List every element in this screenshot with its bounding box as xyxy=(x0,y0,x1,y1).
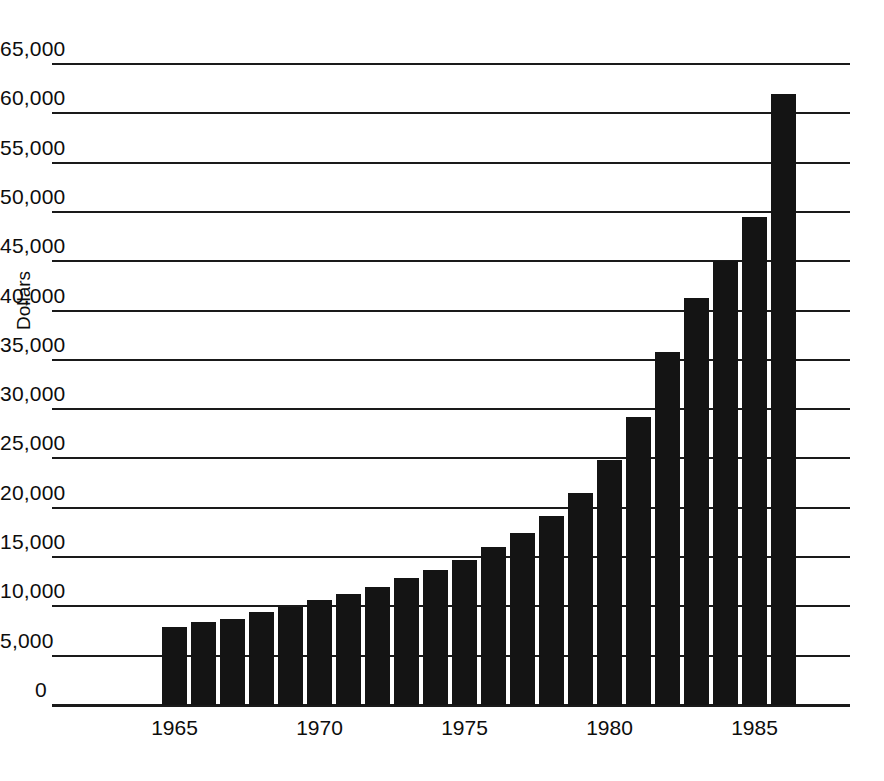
bar xyxy=(423,570,448,705)
y-axis-tick-label: 10,000 xyxy=(0,580,47,601)
bar xyxy=(481,547,506,705)
bar xyxy=(394,578,419,705)
x-axis-baseline xyxy=(52,705,850,707)
y-axis-tick-label: 60,000 xyxy=(0,87,47,108)
bar xyxy=(539,516,564,705)
bar xyxy=(568,493,593,705)
bar xyxy=(742,217,767,705)
y-axis-tick-label: 45,000 xyxy=(0,235,47,256)
gridline xyxy=(52,162,850,164)
bar xyxy=(249,612,274,705)
y-axis-tick-label: 30,000 xyxy=(0,383,47,404)
bar xyxy=(220,619,245,705)
bar xyxy=(365,587,390,705)
y-axis-tick-label: 55,000 xyxy=(0,137,47,158)
gridline xyxy=(52,63,850,65)
gridline xyxy=(52,112,850,114)
bar xyxy=(626,417,651,705)
x-axis-tick-label: 1970 xyxy=(296,716,343,740)
x-axis-tick-label: 1965 xyxy=(151,716,198,740)
bar xyxy=(771,94,796,705)
y-axis-tick-label: 20,000 xyxy=(0,482,47,503)
y-axis-tick-label: 50,000 xyxy=(0,186,47,207)
bar xyxy=(191,622,216,705)
gridline xyxy=(52,211,850,213)
bar xyxy=(278,607,303,705)
bar xyxy=(162,627,187,705)
bar xyxy=(597,460,622,705)
bar xyxy=(452,560,477,705)
y-axis-tick-label: 5,000 xyxy=(0,630,47,651)
bar xyxy=(336,594,361,705)
y-axis-tick-label: 0 xyxy=(0,679,47,700)
bar xyxy=(655,352,680,705)
y-axis-tick-label: 15,000 xyxy=(0,531,47,552)
bar xyxy=(510,533,535,705)
bar xyxy=(684,298,709,705)
y-axis-tick-label: 65,000 xyxy=(0,38,47,59)
bar-chart: Dollars 65,00060,00055,00050,00045,00040… xyxy=(0,0,884,781)
y-axis-tick-label: 40,000 xyxy=(0,285,47,306)
x-axis-tick-label: 1975 xyxy=(441,716,488,740)
bar xyxy=(307,600,332,705)
y-axis-tick-label: 35,000 xyxy=(0,334,47,355)
y-axis-tick-label: 25,000 xyxy=(0,432,47,453)
x-axis-tick-label: 1985 xyxy=(731,716,778,740)
plot-area: Dollars 65,00060,00055,00050,00045,00040… xyxy=(0,0,884,781)
x-axis-tick-label: 1980 xyxy=(586,716,633,740)
bar xyxy=(713,261,738,705)
